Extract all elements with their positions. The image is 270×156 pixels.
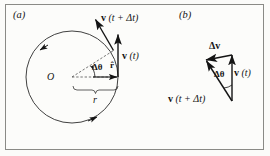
angle-label-b: Δθ [214, 70, 224, 79]
figure-vector-layer [0, 0, 270, 156]
velocity-later-label-b: v (t + Δt) [168, 94, 205, 104]
circle-center-label: O [47, 72, 54, 82]
velocity-now-label-b: v (t) [234, 68, 251, 78]
angle-arc-delta-theta-b [224, 85, 232, 88]
arc-direction-arrowhead-bottom [88, 117, 97, 121]
velocity-later-args-a: (t + Δt) [106, 12, 138, 23]
panel-a-graphics [26, 20, 118, 124]
panel-b-label: (b) [179, 10, 191, 21]
unit-vector-r-hat-label: r̂ [110, 61, 114, 70]
velocity-later-label-a: v (t + Δt) [101, 13, 138, 23]
panel-a-label: (a) [13, 10, 25, 21]
figure-root: (a) v (t + Δt) v (t) O Δθ r̂ r (b) Δv Δθ… [0, 0, 270, 156]
radius-label: r [93, 95, 97, 105]
arc-direction-arrowhead-top [40, 45, 48, 50]
velocity-vector-later-b [207, 61, 233, 101]
velocity-now-args-a: (t) [127, 50, 139, 61]
velocity-vector-later-a [96, 20, 114, 51]
radius-brace [73, 86, 118, 94]
angle-label-a: Δθ [92, 63, 102, 72]
delta-v-vector [206, 55, 232, 60]
velocity-now-args-b: (t) [239, 67, 251, 78]
delta-v-label: Δv [209, 41, 220, 51]
velocity-later-args-b: (t + Δt) [173, 93, 205, 104]
velocity-now-label-a: v (t) [122, 51, 139, 61]
